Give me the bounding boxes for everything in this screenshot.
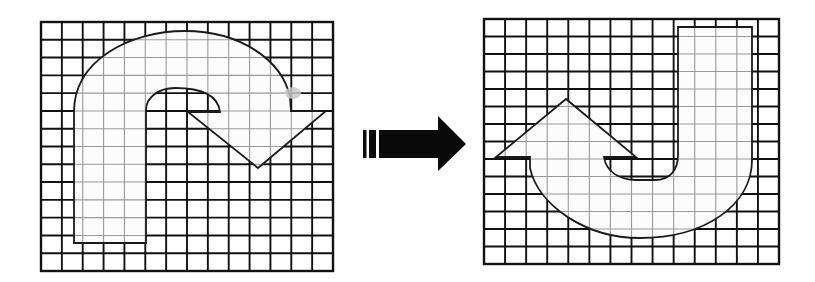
transform-arrow-icon [363, 116, 466, 171]
left-shape-fill [74, 31, 326, 243]
arrow-tail-bar-1 [363, 130, 367, 158]
arrow-head [438, 116, 466, 171]
rotation-diagram [0, 0, 815, 282]
right-shape-fill [496, 27, 752, 238]
arrow-body [379, 130, 440, 158]
arrow-tail-bar-2 [369, 130, 376, 158]
smudge-mark [285, 87, 301, 99]
